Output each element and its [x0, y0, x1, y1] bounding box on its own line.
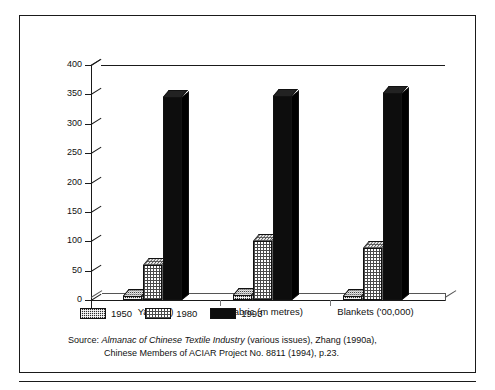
bar-front-face	[143, 265, 162, 300]
bar-1980-yarnkt	[143, 265, 162, 300]
source-line2: Chinese Members of ACIAR Project No. 881…	[68, 347, 468, 360]
bar-front-face	[163, 97, 182, 300]
y-tick-depth-mark	[91, 147, 102, 154]
bar-1950-blankets	[343, 296, 362, 300]
y-tick-depth-mark	[91, 264, 102, 271]
bar-1993-blankets	[383, 93, 402, 300]
y-axis-line	[91, 65, 92, 317]
x-axis-line	[91, 300, 445, 301]
bar-side-face	[402, 87, 409, 300]
bar-front-face	[253, 241, 272, 300]
y-tick-label: 400	[48, 59, 82, 69]
y-tick-label: 150	[48, 206, 82, 216]
legend-label-1980: 1980	[176, 308, 197, 319]
y-tick-depth-mark	[91, 59, 102, 66]
legend-swatch-1950	[80, 308, 106, 319]
legend-label-1993: 1993	[241, 308, 262, 319]
legend-item-1980: 1980	[145, 308, 197, 319]
plot-top-border	[101, 65, 445, 66]
legend-swatch-1993	[210, 308, 236, 319]
bar-side-face	[182, 91, 189, 300]
source-label: Source:	[68, 335, 99, 345]
bar-1950-yarnkt	[123, 296, 142, 300]
y-tick-label: 200	[48, 177, 82, 187]
y-tick-depth-mark	[91, 176, 102, 183]
y-tick-label: 350	[48, 88, 82, 98]
bar-1980-fabricmmetres	[253, 241, 272, 300]
bar-front-face	[273, 96, 292, 300]
bar-1993-yarnkt	[163, 97, 182, 300]
legend-swatch-1980	[145, 308, 171, 319]
bottom-rule	[19, 381, 476, 382]
bar-front-face	[363, 248, 382, 300]
y-tick-label: 0	[48, 294, 82, 304]
source-rest-line1: (various issues), Zhang (1990a),	[247, 335, 377, 345]
bar-1950-fabricmmetres	[233, 295, 252, 300]
x-axis-group-separator	[330, 300, 331, 306]
plot-floor-right-slant	[445, 290, 457, 298]
legend-item-1993: 1993	[210, 308, 262, 319]
source-publication-title: Almanac of Chinese Textile Industry	[102, 335, 245, 345]
bar-1993-fabricmmetres	[273, 96, 292, 300]
chart-figure-frame: 050100150200250300350400 Yarn (kt)Fabric…	[19, 15, 476, 373]
bar-side-face	[292, 90, 299, 300]
y-tick-depth-mark	[91, 206, 102, 213]
y-tick-label: 250	[48, 147, 82, 157]
bar-1980-blankets	[363, 248, 382, 300]
bar-front-face	[383, 93, 402, 300]
bar-front-face	[233, 295, 252, 300]
x-axis-label-2: Blankets ('00,000)	[337, 306, 413, 317]
y-tick-depth-mark	[91, 88, 102, 95]
chart-legend: 195019801993	[80, 308, 275, 319]
bar-front-face	[343, 296, 362, 300]
y-tick-label: 50	[48, 265, 82, 275]
plot-floor-right-edge	[445, 293, 446, 301]
legend-label-1950: 1950	[111, 308, 132, 319]
y-tick-label: 300	[48, 118, 82, 128]
plot-area: 050100150200250300350400 Yarn (kt)Fabric…	[65, 48, 425, 306]
x-axis-group-separator	[220, 300, 221, 306]
source-note: Source: Almanac of Chinese Textile Indus…	[68, 334, 468, 360]
bar-front-face	[123, 296, 142, 300]
y-tick-label: 100	[48, 235, 82, 245]
y-tick-depth-mark	[91, 235, 102, 242]
legend-item-1950: 1950	[80, 308, 132, 319]
y-tick-depth-mark	[91, 117, 102, 124]
